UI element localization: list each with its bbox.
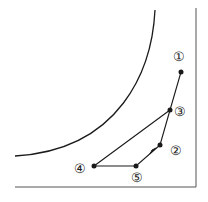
diagram-canvas: ① ③ ② ⑤ ④: [0, 0, 208, 202]
point-1-label: ①: [173, 49, 185, 64]
indifference-curve: [15, 10, 155, 156]
point-4-dot: [92, 164, 97, 169]
point-3-label: ③: [174, 104, 186, 119]
point-2-dot: [158, 143, 163, 148]
arrow-icon: [150, 148, 156, 154]
point-5-label: ⑤: [131, 170, 143, 185]
point-3-dot: [168, 108, 173, 113]
point-5-dot: [134, 164, 139, 169]
point-4-label: ④: [74, 161, 86, 176]
point-1-dot: [179, 70, 184, 75]
path-2-5-4-3: [94, 110, 170, 166]
point-2-label: ②: [170, 143, 182, 158]
